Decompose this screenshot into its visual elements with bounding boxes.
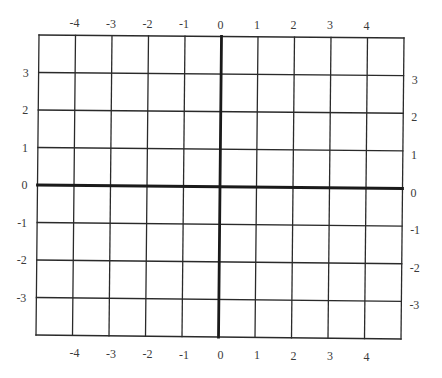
x-tick-label-top: 0 [218,18,224,32]
x-tick-label-top: 1 [254,18,260,32]
x-axis-top-labels: -4-3-2-101234 [70,16,370,32]
x-tick-label-top: 2 [291,18,297,32]
x-tick-label-bottom: 4 [364,350,370,364]
x-axis-bottom-labels: -4-3-2-101234 [70,346,370,363]
y-tick-label-left: -2 [17,253,27,267]
x-tick-label-top: -1 [179,17,189,31]
y-tick-label-left: 0 [22,178,28,192]
y-tick-label-left: 1 [22,141,28,155]
x-tick-label-top: 4 [364,19,370,33]
x-tick-label-bottom: -1 [179,348,189,362]
y-tick-label-right: -3 [409,298,419,312]
x-tick-label-bottom: 0 [218,348,224,362]
coordinate-grid: -4-3-2-101234 -4-3-2-101234 3210-1-2-3 3… [0,0,442,378]
y-tick-label-left: 2 [22,103,28,117]
x-tick-label-bottom: -3 [106,347,116,361]
y-tick-label-right: 1 [411,148,417,162]
x-tick-label-top: -3 [106,17,116,31]
y-tick-label-left: 3 [23,66,29,80]
x-tick-label-bottom: 1 [254,348,260,362]
x-tick-label-bottom: -2 [143,347,153,361]
y-tick-label-left: -1 [17,216,27,230]
x-axis-line [38,185,403,189]
y-tick-label-right: -1 [410,223,420,237]
y-tick-label-right: 3 [412,73,418,87]
y-axis-right-labels: 3210-1-2-3 [409,73,420,313]
x-tick-label-top: 3 [327,18,333,32]
y-tick-label-left: -3 [16,291,26,305]
y-tick-label-right: 2 [411,110,417,124]
x-tick-label-bottom: 2 [291,349,297,363]
y-axis-left-labels: 3210-1-2-3 [16,66,28,305]
x-tick-label-top: -2 [143,17,153,31]
x-tick-label-top: -4 [70,16,80,30]
x-tick-label-bottom: 3 [327,349,333,363]
y-tick-label-right: -2 [410,261,420,275]
y-tick-label-right: 0 [411,186,417,200]
axes [38,37,403,338]
x-tick-label-bottom: -4 [70,346,80,360]
